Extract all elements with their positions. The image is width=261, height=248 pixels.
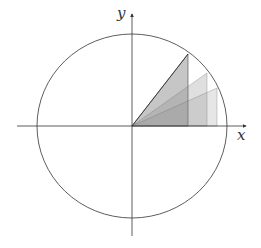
triangles-group — [132, 54, 217, 126]
diagram-canvas: y x — [0, 0, 261, 248]
x-axis-label: x — [237, 128, 245, 143]
y-axis-label: y — [117, 6, 125, 21]
diagram-svg — [0, 0, 261, 248]
